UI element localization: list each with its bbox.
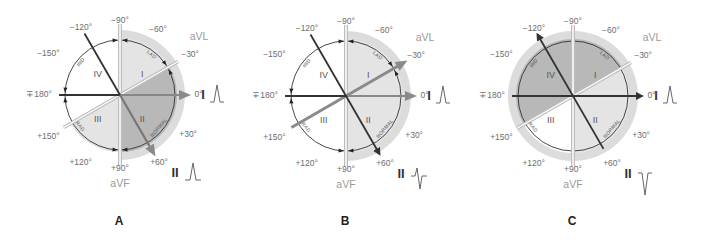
angle-label: −120°	[296, 23, 319, 33]
angle-label: −150°	[490, 49, 513, 59]
quadrant-label-i: I	[141, 69, 144, 79]
quadrant-label-ii: II	[140, 114, 145, 124]
panel-c: −90°−60°−30°0°+30°+60°+90°+120°+150°∓180…	[479, 16, 677, 228]
quadrant-label-iv: IV	[547, 70, 556, 80]
angle-label: −150°	[263, 49, 286, 59]
avf-label: aVF	[563, 178, 582, 190]
angle-label: −60°	[602, 25, 620, 35]
quadrant-label-i: I	[594, 70, 597, 80]
angle-label: +30°	[405, 130, 423, 140]
lead-i-label: I	[201, 87, 205, 102]
angle-label: −90°	[111, 15, 129, 25]
angle-label: +120°	[522, 158, 545, 168]
panel-b: −90°−60°−30°0°+30°+60°+90°+120°+150°∓180…	[252, 16, 450, 228]
quadrant-label-iv: IV	[320, 70, 329, 80]
angle-label: −90°	[337, 16, 355, 26]
lead-ii-waveform-icon	[185, 163, 201, 180]
angle-label: ∓180°	[26, 89, 52, 99]
lead-ii-waveform-icon	[411, 168, 427, 189]
panel-letter-c: C	[568, 214, 577, 228]
lead-ii-label: II	[171, 165, 178, 180]
angle-label: +60°	[376, 158, 394, 168]
lead-ii-waveform-icon	[638, 173, 652, 195]
angle-label: −30°	[181, 49, 199, 59]
angle-label: +60°	[150, 157, 168, 167]
angle-label: −30°	[407, 50, 425, 60]
angle-label: −60°	[149, 24, 167, 34]
lead-i-waveform-icon	[663, 86, 677, 103]
angle-label: +150°	[263, 132, 286, 142]
angle-label: +90°	[564, 164, 582, 174]
angle-label: +90°	[337, 164, 355, 174]
angle-label: ∓180°	[479, 90, 505, 100]
lead-i-waveform-icon	[210, 85, 224, 102]
avl-label: aVL	[643, 31, 662, 43]
angle-label: −60°	[375, 25, 393, 35]
hexaxial-figure: −90°−60°−30°0°+30°+60°+90°+120°+150°∓180…	[0, 0, 709, 245]
quadrant-label-ii: II	[593, 115, 598, 125]
angle-label: −30°	[634, 50, 652, 60]
quadrant-label-iii: III	[320, 115, 328, 125]
panel-a: −90°−60°−30°0°+30°+60°+90°+120°+150°∓180…	[26, 15, 224, 228]
quadrant-label-iii: III	[547, 115, 555, 125]
angle-label: +150°	[490, 132, 513, 142]
angle-label: +120°	[295, 158, 318, 168]
quadrant-label-iii: III	[94, 114, 102, 124]
angle-label: −120°	[523, 23, 546, 33]
avf-label: aVF	[110, 177, 129, 189]
angle-label: +30°	[632, 130, 650, 140]
angle-label: −150°	[37, 48, 60, 58]
avl-label: aVL	[416, 31, 435, 43]
lead-i-label: I	[427, 88, 431, 103]
angle-label: +30°	[179, 129, 197, 139]
lead-i-waveform-icon	[436, 86, 450, 103]
lead-ii-label: II	[397, 166, 404, 181]
angle-label: −120°	[70, 22, 93, 32]
quadrant-label-ii: II	[366, 115, 371, 125]
angle-label: +120°	[69, 157, 92, 167]
angle-label: +60°	[603, 158, 621, 168]
angle-label: +90°	[111, 163, 129, 173]
panel-letter-a: A	[115, 214, 124, 228]
angle-label: −90°	[564, 16, 582, 26]
avf-label: aVF	[336, 178, 355, 190]
quadrant-label-iv: IV	[94, 69, 103, 79]
angle-label: +150°	[37, 131, 60, 141]
avl-label: aVL	[190, 30, 209, 42]
quadrant-label-i: I	[367, 70, 370, 80]
angle-label: ∓180°	[252, 90, 278, 100]
panel-letter-b: B	[341, 214, 350, 228]
lead-ii-label: II	[624, 166, 631, 181]
lead-i-label: I	[654, 88, 658, 103]
